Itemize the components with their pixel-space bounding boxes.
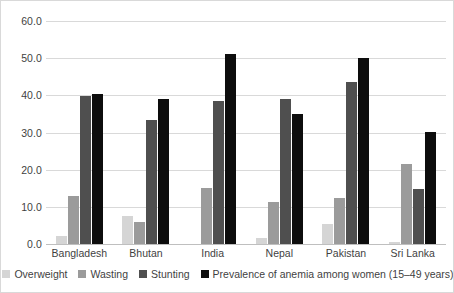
legend-item[interactable]: Prevalence of anemia among women (15–49 … bbox=[201, 268, 454, 280]
x-axis-category-label: Sri Lanka bbox=[390, 247, 434, 259]
bar bbox=[389, 242, 400, 244]
legend-swatch-icon bbox=[201, 270, 209, 278]
bar bbox=[80, 96, 91, 244]
bar bbox=[346, 82, 357, 244]
y-axis-tick-label: 0.0 bbox=[4, 238, 42, 250]
x-axis-category-label: Bhutan bbox=[129, 247, 162, 259]
x-axis-category-label: India bbox=[201, 247, 224, 259]
bar bbox=[158, 99, 169, 244]
y-axis-tick-label: 40.0 bbox=[4, 89, 42, 101]
bar bbox=[68, 196, 79, 244]
bar bbox=[225, 54, 236, 244]
bar bbox=[134, 222, 145, 244]
bar bbox=[358, 58, 369, 244]
x-axis-category-label: Nepal bbox=[266, 247, 293, 259]
bar-chart: 0.010.020.030.040.050.060.0 BangladeshBh… bbox=[0, 0, 454, 293]
bar-group bbox=[379, 21, 446, 244]
bar-group bbox=[246, 21, 313, 244]
legend-label: Stunting bbox=[151, 268, 190, 280]
bar-group bbox=[113, 21, 180, 244]
legend-swatch-icon bbox=[78, 270, 86, 278]
legend-swatch-icon bbox=[2, 270, 10, 278]
legend-label: Overweight bbox=[14, 268, 67, 280]
bar bbox=[146, 120, 157, 244]
legend-label: Prevalence of anemia among women (15–49 … bbox=[213, 268, 454, 280]
bar-group bbox=[313, 21, 380, 244]
bar bbox=[56, 236, 67, 244]
legend-item[interactable]: Overweight bbox=[2, 268, 67, 280]
x-axis-category-label: Bangladesh bbox=[52, 247, 107, 259]
bar bbox=[92, 94, 103, 244]
bar bbox=[213, 101, 224, 244]
bar-group bbox=[46, 21, 113, 244]
y-axis-tick-label: 10.0 bbox=[4, 201, 42, 213]
bar bbox=[256, 238, 267, 244]
legend-item[interactable]: Stunting bbox=[139, 268, 190, 280]
y-axis-tick-label: 60.0 bbox=[4, 15, 42, 27]
gridline-0-0 bbox=[46, 244, 446, 245]
x-axis: BangladeshBhutanIndiaNepalPakistanSri La… bbox=[46, 247, 446, 263]
bar bbox=[280, 99, 291, 244]
bar bbox=[122, 216, 133, 244]
bar bbox=[413, 189, 424, 244]
x-axis-category-label: Pakistan bbox=[326, 247, 366, 259]
bar bbox=[334, 198, 345, 244]
bar bbox=[268, 202, 279, 244]
y-axis-tick-label: 20.0 bbox=[4, 164, 42, 176]
bar bbox=[322, 224, 333, 244]
legend-swatch-icon bbox=[139, 270, 147, 278]
y-axis-tick-label: 50.0 bbox=[4, 52, 42, 64]
y-axis: 0.010.020.030.040.050.060.0 bbox=[1, 21, 42, 244]
bars-layer bbox=[46, 21, 446, 244]
y-axis-tick-label: 30.0 bbox=[4, 127, 42, 139]
bar-group bbox=[179, 21, 246, 244]
legend-label: Wasting bbox=[90, 268, 128, 280]
bar bbox=[201, 188, 212, 244]
chart-legend: OverweightWastingStuntingPrevalence of a… bbox=[1, 268, 454, 280]
legend-item[interactable]: Wasting bbox=[78, 268, 128, 280]
bar bbox=[401, 164, 412, 244]
bar bbox=[292, 114, 303, 244]
bar bbox=[425, 132, 436, 244]
